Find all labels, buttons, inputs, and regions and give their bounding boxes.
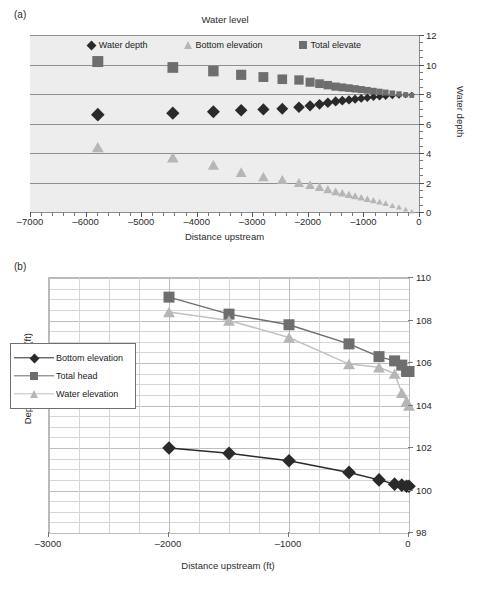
axis-tick bbox=[419, 87, 423, 88]
axis-tick bbox=[419, 116, 423, 117]
axis-tick-label: –2000 bbox=[295, 216, 321, 227]
axis-tick bbox=[419, 109, 423, 110]
axis-tick-label: 8 bbox=[426, 89, 431, 100]
axis-tick bbox=[419, 57, 423, 58]
axis-tick-label: –6000 bbox=[72, 216, 98, 227]
legend-label-total-head: Total head bbox=[56, 371, 98, 381]
legend-label-water-elevation: Water elevation bbox=[56, 389, 118, 399]
legend-line-bottom-elevation bbox=[14, 353, 54, 363]
square-marker-icon bbox=[299, 41, 307, 49]
axis-tick bbox=[408, 320, 413, 321]
axis-tick bbox=[419, 79, 423, 80]
chart-a-legend: Water depth Bottom elevation Total eleva… bbox=[30, 37, 419, 53]
chart-b-x-ticks bbox=[48, 532, 409, 537]
chart-a-x-axis-title: Distance upstream bbox=[30, 231, 419, 242]
chart-b-y-ticks bbox=[408, 277, 413, 533]
triangle-marker-icon bbox=[184, 41, 192, 49]
chart-panel-a: (a) Water level Water depth Bottom eleva… bbox=[0, 0, 491, 252]
chart-b-legend: Bottom elevation Total head Water elevat… bbox=[10, 343, 136, 409]
axis-tick-label: 0 bbox=[426, 207, 431, 218]
chart-b-x-axis-title: Distance upstream (ft) bbox=[48, 560, 408, 571]
axis-tick bbox=[419, 168, 423, 169]
chart-a-y-ticks bbox=[419, 35, 424, 213]
axis-tick bbox=[168, 532, 169, 537]
axis-tick-label: 108 bbox=[416, 314, 432, 325]
axis-tick-label: 2 bbox=[426, 177, 431, 188]
axis-tick-label: 110 bbox=[416, 272, 431, 283]
axis-tick bbox=[419, 124, 424, 125]
axis-tick-label: –5000 bbox=[128, 216, 154, 227]
legend-line-total-head bbox=[14, 371, 54, 381]
axis-tick-label: –7000 bbox=[17, 216, 43, 227]
axis-tick bbox=[419, 131, 423, 132]
axis-tick-label: 102 bbox=[416, 442, 432, 453]
triangle-marker-icon bbox=[30, 390, 38, 398]
axis-tick bbox=[419, 42, 423, 43]
axis-tick-label: 0 bbox=[405, 538, 410, 549]
axis-tick-label: 0 bbox=[416, 216, 421, 227]
axis-tick bbox=[419, 175, 423, 176]
axis-tick bbox=[419, 65, 424, 66]
axis-tick bbox=[419, 153, 424, 154]
chart-a-x-tick-labels: –7000–6000–5000–4000–3000–2000–10000 bbox=[0, 216, 491, 230]
axis-tick-label: 12 bbox=[426, 30, 437, 41]
chart-b-x-tick-labels: –3000–2000–10000 bbox=[0, 538, 491, 552]
axis-tick-label: 104 bbox=[416, 399, 432, 410]
axis-tick bbox=[419, 101, 423, 102]
axis-tick bbox=[419, 138, 423, 139]
legend-item-water-elevation[interactable]: Water elevation bbox=[14, 385, 131, 403]
diamond-marker-icon bbox=[29, 353, 39, 363]
legend-label-bottom-elevation: Bottom elevation bbox=[196, 40, 263, 50]
axis-tick-label: 98 bbox=[416, 527, 427, 538]
axis-tick bbox=[419, 205, 423, 206]
axis-tick bbox=[419, 50, 423, 51]
axis-tick bbox=[419, 94, 424, 95]
axis-tick bbox=[419, 197, 423, 198]
legend-item-bottom-elevation[interactable]: Bottom elevation bbox=[14, 349, 131, 367]
axis-tick bbox=[408, 447, 413, 448]
axis-tick bbox=[48, 532, 49, 537]
diamond-marker-icon bbox=[86, 40, 96, 50]
axis-tick bbox=[419, 212, 424, 213]
axis-tick-label: 10 bbox=[426, 59, 437, 70]
axis-tick-label: 4 bbox=[426, 148, 431, 159]
axis-tick-label: –1000 bbox=[275, 538, 301, 549]
legend-label-water-depth: Water depth bbox=[99, 40, 148, 50]
chart-a-y-tick-labels: 024681012 bbox=[426, 35, 456, 213]
axis-tick bbox=[419, 35, 424, 36]
chart-a-series-layer bbox=[30, 35, 419, 212]
legend-label-total-elevate: Total elevate bbox=[311, 40, 362, 50]
chart-a-y-axis-title: Water depth bbox=[455, 86, 466, 137]
axis-tick bbox=[419, 160, 423, 161]
legend-item-total-head[interactable]: Total head bbox=[14, 367, 131, 385]
panel-label-b: (b) bbox=[14, 261, 26, 272]
axis-tick bbox=[419, 72, 423, 73]
axis-tick bbox=[419, 190, 423, 191]
chart-panel-b: (b) Bottom elevation Total head Water el bbox=[0, 255, 491, 590]
square-marker-icon bbox=[30, 372, 38, 380]
axis-tick bbox=[408, 490, 413, 491]
axis-tick-label: –1000 bbox=[350, 216, 376, 227]
axis-tick-label: 106 bbox=[416, 357, 432, 368]
legend-line-water-elevation bbox=[14, 389, 54, 399]
chart-a-plot-area: Water depth Bottom elevation Total eleva… bbox=[30, 35, 420, 213]
legend-item-bottom-elevation[interactable]: Bottom elevation bbox=[184, 40, 263, 50]
axis-tick-label: 6 bbox=[426, 118, 431, 129]
axis-tick bbox=[408, 362, 413, 363]
axis-tick-label: 100 bbox=[416, 484, 432, 495]
axis-tick-label: –2000 bbox=[155, 538, 181, 549]
axis-tick-label: –3000 bbox=[239, 216, 265, 227]
legend-label-bottom-elevation: Bottom elevation bbox=[56, 353, 123, 363]
legend-item-total-elevate[interactable]: Total elevate bbox=[299, 40, 362, 50]
axis-tick bbox=[419, 183, 424, 184]
axis-tick bbox=[288, 532, 289, 537]
axis-tick bbox=[419, 146, 423, 147]
axis-tick-label: –4000 bbox=[183, 216, 209, 227]
chart-a-title: Water level bbox=[30, 14, 420, 25]
axis-tick-label: –3000 bbox=[35, 538, 61, 549]
axis-tick bbox=[408, 532, 409, 537]
chart-b-y-tick-labels: 98100102104106108110 bbox=[416, 277, 450, 533]
axis-tick bbox=[408, 405, 413, 406]
legend-item-water-depth[interactable]: Water depth bbox=[88, 40, 148, 50]
axis-tick bbox=[408, 277, 413, 278]
